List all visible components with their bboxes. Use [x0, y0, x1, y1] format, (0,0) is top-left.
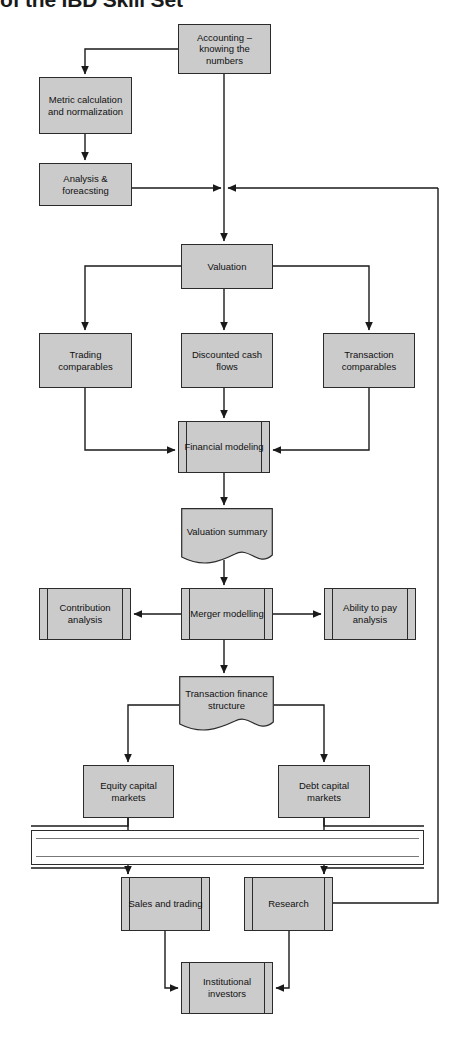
node-financial-modeling[interactable]: Financial modeling [178, 421, 270, 473]
node-metric-calculation[interactable]: Metric calculation and normalization [39, 77, 132, 134]
node-equity-capital-markets[interactable]: Equity capital markets [83, 765, 174, 818]
node-research-label: Research [264, 898, 313, 910]
chinese-wall-line-bottom [36, 856, 419, 857]
node-contribution-analysis[interactable]: Contribution analysis [39, 588, 131, 640]
node-analysis-forecasting-label: Analysis & foreacsting [40, 173, 131, 196]
node-contribution-analysis-label: Contribution analysis [40, 602, 130, 625]
node-financial-modeling-label: Financial modeling [180, 441, 267, 453]
node-sales-and-trading-label: Sales and trading [125, 898, 207, 910]
node-valuation-label: Valuation [204, 261, 251, 273]
node-research[interactable]: Research [244, 877, 333, 931]
node-debt-capital-markets-label: Debt capital markets [279, 780, 369, 803]
node-transaction-finance-structure[interactable]: Transaction finance structure [179, 676, 274, 733]
node-accounting[interactable]: Accounting – knowing the numbers [178, 24, 271, 74]
node-trading-comparables[interactable]: Trading comparables [39, 333, 132, 388]
node-discounted-cash-flows[interactable]: Discounted cash flows [181, 333, 273, 388]
node-valuation-summary-label: Valuation summary [183, 526, 272, 538]
node-valuation[interactable]: Valuation [181, 244, 273, 289]
node-institutional-investors[interactable]: Institutional investors [181, 962, 273, 1014]
node-debt-capital-markets[interactable]: Debt capital markets [278, 765, 370, 818]
node-merger-modelling[interactable]: Merger modelling [181, 588, 273, 640]
node-ability-to-pay-analysis-label: Ability to pay analysis [325, 602, 415, 625]
node-transaction-comparables[interactable]: Transaction comparables [323, 333, 415, 388]
node-equity-capital-markets-label: Equity capital markets [84, 780, 173, 803]
node-metric-calculation-label: Metric calculation and normalization [40, 94, 131, 117]
node-transaction-finance-structure-label: Transaction finance structure [179, 688, 274, 711]
diagram-page: of the IBD Skill Set [0, 0, 455, 1054]
chinese-wall-line-top [36, 838, 419, 839]
node-transaction-comparables-label: Transaction comparables [324, 349, 414, 372]
node-institutional-investors-label: Institutional investors [182, 976, 272, 999]
node-discounted-cash-flows-label: Discounted cash flows [182, 349, 272, 372]
node-accounting-label: Accounting – knowing the numbers [179, 32, 270, 67]
node-valuation-summary[interactable]: Valuation summary [181, 508, 273, 566]
node-sales-and-trading[interactable]: Sales and trading [121, 877, 210, 931]
node-ability-to-pay-analysis[interactable]: Ability to pay analysis [324, 588, 416, 640]
node-merger-modelling-label: Merger modelling [186, 608, 267, 620]
node-trading-comparables-label: Trading comparables [40, 349, 131, 372]
node-analysis-forecasting[interactable]: Analysis & foreacsting [39, 163, 132, 206]
chinese-wall-bar [31, 830, 424, 865]
